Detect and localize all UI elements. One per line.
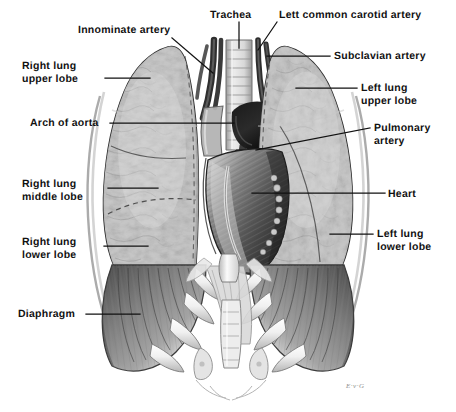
label-left-common-carotid-artery: Lett common carotid artery	[279, 9, 421, 22]
artist-signature: E·v·G	[346, 382, 364, 390]
label-diaphragm: Diaphragm	[18, 308, 75, 321]
label-innominate-artery: Innominate artery	[78, 24, 170, 37]
label-right-lung-middle-lobe: Right lung middle lobe	[22, 178, 83, 203]
label-left-lung-lower-lobe: Left lung lower lobe	[377, 228, 431, 253]
label-subclavian-artery: Subclavian artery	[334, 50, 426, 63]
label-right-lung-upper-lobe: Right lung upper lobe	[22, 60, 78, 85]
label-left-lung-upper-lobe: Left lung upper lobe	[361, 82, 417, 107]
label-heart: Heart	[388, 188, 416, 201]
anatomy-figure: Innominate arteryTracheaLett common caro…	[0, 0, 456, 412]
label-pulmonary-artery: Pulmonary artery	[374, 122, 431, 147]
label-right-lung-lower-lobe: Right lung lower lobe	[22, 236, 76, 261]
label-trachea: Trachea	[210, 9, 251, 22]
label-arch-of-aorta: Arch of aorta	[30, 117, 99, 130]
